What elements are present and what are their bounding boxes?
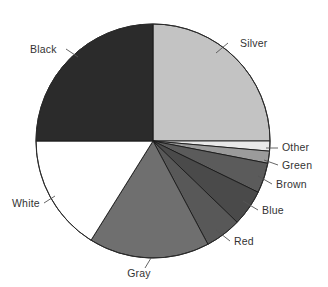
- slice-label-black: Black: [30, 43, 57, 55]
- pie-slices-group: [36, 24, 270, 258]
- slice-label-white: White: [12, 197, 40, 209]
- pie-slice-black: [36, 24, 153, 141]
- pie-chart-figure: SilverOtherGreenBrownBlueRedGrayWhiteBla…: [0, 0, 328, 287]
- slice-label-red: Red: [234, 235, 254, 247]
- pie-chart-canvas: SilverOtherGreenBrownBlueRedGrayWhiteBla…: [0, 0, 328, 287]
- slice-label-brown: Brown: [276, 178, 307, 190]
- slice-label-green: Green: [282, 159, 312, 171]
- slice-label-silver: Silver: [240, 37, 268, 49]
- slice-label-other: Other: [282, 141, 310, 153]
- slice-label-blue: Blue: [262, 204, 284, 216]
- slice-label-gray: Gray: [127, 267, 151, 279]
